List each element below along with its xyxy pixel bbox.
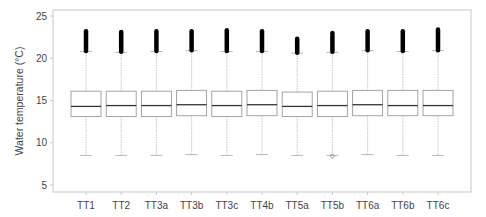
y-tick-label: 10 [36, 137, 48, 148]
y-tick-label: 25 [36, 11, 48, 22]
x-tick-label: TT2 [112, 200, 130, 211]
y-axis: 510152025 [36, 11, 53, 191]
box-tt3b [177, 31, 207, 154]
x-tick-label: TT5a [286, 200, 310, 211]
iqr-box [141, 91, 171, 116]
box-tt3c [212, 30, 242, 155]
y-tick-label: 15 [36, 95, 48, 106]
y-tick-label: 20 [36, 53, 48, 64]
y-axis-title: Water temperature (°C) [13, 47, 25, 156]
iqr-box [106, 91, 136, 116]
x-tick-label: TT6b [391, 200, 415, 211]
iqr-box [353, 90, 383, 115]
iqr-box [388, 90, 418, 115]
box-tt3a [141, 31, 171, 155]
box-tt6a [353, 31, 383, 154]
iqr-box [423, 90, 453, 115]
iqr-box [317, 91, 347, 116]
x-tick-label: TT6a [356, 200, 380, 211]
x-tick-label: TT3c [215, 200, 238, 211]
box-tt6b [388, 31, 418, 155]
box-tt1 [71, 31, 101, 155]
x-tick-label: TT3a [145, 200, 169, 211]
box-tt5b [317, 33, 347, 158]
x-tick-label: TT1 [77, 200, 95, 211]
iqr-box [71, 91, 101, 116]
box-tt2 [106, 32, 136, 155]
iqr-box [177, 90, 207, 115]
boxes [71, 30, 453, 159]
y-tick-label: 5 [41, 180, 47, 191]
box-tt5a [282, 39, 312, 156]
iqr-box [282, 92, 312, 117]
x-tick-label: TT4b [250, 200, 274, 211]
boxplot-chart: 510152025 TT1TT2TT3aTT3bTT3cTT4bTT5aTT5b… [0, 0, 486, 217]
iqr-box [247, 90, 277, 115]
x-tick-label: TT5b [321, 200, 345, 211]
box-tt6c [423, 30, 453, 156]
iqr-box [212, 91, 242, 116]
x-tick-label: TT3b [180, 200, 204, 211]
x-tick-label: TT6c [427, 200, 450, 211]
x-axis: TT1TT2TT3aTT3bTT3cTT4bTT5aTT5bTT6aTT6bTT… [77, 192, 449, 211]
box-tt4b [247, 31, 277, 154]
